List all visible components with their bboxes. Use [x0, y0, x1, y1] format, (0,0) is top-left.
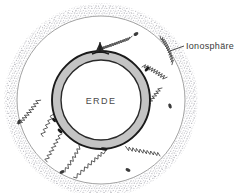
- wave-segment-left-inbound: [18, 100, 41, 123]
- ionosphere-diagram: ERDE Ionosphäre: [0, 0, 235, 193]
- wave-segment-bottom-right-inbound: [126, 146, 160, 156]
- wave-segment-left-outbound: [45, 134, 62, 162]
- wave-segment-bottom-left-outbound: [74, 150, 106, 178]
- wave-segment-up-right: [100, 36, 132, 50]
- wave-segment-upper-left: [41, 114, 54, 137]
- earth-label: ERDE: [86, 96, 117, 106]
- diagram-page: ERDE Ionosphäre: [0, 0, 235, 193]
- ionosphere-label: Ionosphäre: [186, 41, 234, 51]
- wave-segment-right-outbound: [142, 65, 167, 79]
